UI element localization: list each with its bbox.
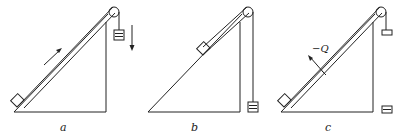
small-weight bbox=[382, 30, 392, 35]
force-arrow bbox=[310, 57, 324, 73]
pulley bbox=[109, 7, 119, 17]
panel-a bbox=[11, 7, 135, 112]
incline bbox=[281, 14, 375, 112]
incline bbox=[148, 14, 242, 112]
hanging-weight bbox=[248, 102, 258, 112]
panel-label-a: a bbox=[60, 121, 67, 134]
panel-label-b: b bbox=[191, 121, 198, 134]
diagram-canvas: −Q a b c bbox=[0, 0, 401, 136]
block bbox=[197, 42, 210, 55]
belt-bottom bbox=[24, 13, 115, 108]
force-label: −Q bbox=[312, 43, 329, 54]
panel-c bbox=[278, 7, 392, 113]
arrow-up-slope bbox=[44, 50, 60, 65]
pulley bbox=[376, 7, 386, 17]
block bbox=[11, 94, 24, 107]
panel-label-c: c bbox=[325, 121, 331, 134]
belt-top bbox=[20, 7, 113, 104]
belt-top bbox=[287, 7, 380, 104]
incline bbox=[14, 14, 108, 112]
block bbox=[278, 94, 291, 107]
pulley bbox=[243, 7, 253, 17]
panel-b bbox=[148, 7, 258, 112]
belt-bottom bbox=[291, 13, 382, 108]
belt-bottom bbox=[206, 13, 249, 52]
hanging-weight bbox=[114, 30, 124, 40]
